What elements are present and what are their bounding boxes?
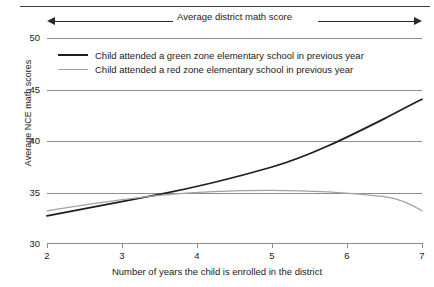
x-tick-2 <box>47 243 48 248</box>
y-tick-label-30: 30 <box>22 238 40 249</box>
y-tick-label-35: 35 <box>22 187 40 198</box>
right-arrowhead-icon <box>414 17 422 25</box>
chart-figure: Average district math score Average NCE … <box>0 0 434 287</box>
y-tick-label-40: 40 <box>22 135 40 146</box>
x-tick-5 <box>272 243 273 248</box>
y-axis-title: Average NCE math scores <box>23 38 33 188</box>
x-tick-4 <box>197 243 198 248</box>
x-tick-label-3: 3 <box>112 250 132 261</box>
x-tick-label-2: 2 <box>37 250 57 261</box>
legend-swatch-green-zone-icon <box>58 54 88 56</box>
gridline-40 <box>47 141 422 142</box>
x-tick-6 <box>347 243 348 248</box>
legend-swatch-red-zone-icon <box>58 69 88 70</box>
legend-item-red-zone: Child attended a red zone elementary sch… <box>58 62 364 76</box>
x-tick-3 <box>122 243 123 248</box>
x-tick-label-7: 7 <box>412 250 432 261</box>
average-district-math-score-annotation: Average district math score <box>47 13 422 29</box>
top-divider-rule <box>20 6 430 7</box>
annotation-line-right <box>318 21 416 22</box>
x-axis-line <box>47 243 422 244</box>
legend-item-green-zone: Child attended a green zone elementary s… <box>58 48 364 62</box>
chart-legend: Child attended a green zone elementary s… <box>58 48 364 76</box>
series-line-green-zone <box>47 99 422 216</box>
x-axis-title: Number of years the child is enrolled in… <box>0 266 434 277</box>
y-tick-label-45: 45 <box>22 84 40 95</box>
gridline-35 <box>47 193 422 194</box>
x-tick-7 <box>422 243 423 248</box>
legend-label-red-zone: Child attended a red zone elementary sch… <box>95 64 353 75</box>
gridline-45 <box>47 90 422 91</box>
legend-label-green-zone: Child attended a green zone elementary s… <box>95 50 364 61</box>
gridline-50 <box>47 38 422 39</box>
x-tick-label-5: 5 <box>262 250 282 261</box>
y-tick-label-50: 50 <box>22 32 40 43</box>
x-tick-label-6: 6 <box>337 250 357 261</box>
x-tick-label-4: 4 <box>187 250 207 261</box>
